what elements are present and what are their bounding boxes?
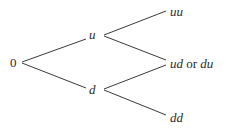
node-ud-or-du-label: ud or du [170,57,213,70]
edge-0-u [22,39,86,62]
edge-d-ud [104,65,166,89]
node-root-label: 0 [10,56,17,69]
node-d-label: d [89,83,96,96]
or-connector-text: or [186,56,197,71]
node-ud-text: ud [170,56,183,71]
edge-u-uu [104,11,166,35]
node-u-label: u [89,28,96,41]
edge-0-d [22,63,86,88]
node-du-text: du [200,56,213,71]
edge-u-ud [104,36,166,60]
edge-d-dd [104,90,166,115]
node-uu-label: uu [170,5,183,18]
node-dd-label: dd [170,111,183,124]
